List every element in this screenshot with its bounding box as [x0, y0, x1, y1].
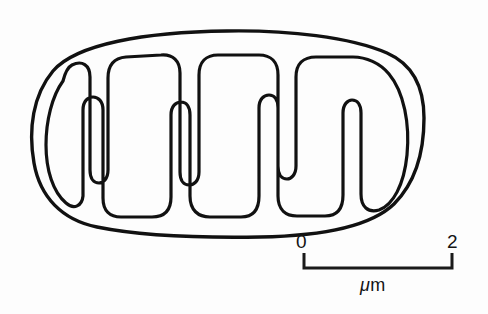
scalebar-unit-m: m: [370, 275, 385, 295]
scalebar-unit-mu: μ: [360, 275, 370, 295]
scalebar-rule: [304, 253, 452, 268]
scalebar-start-label: 0: [296, 232, 307, 251]
scalebar-end-label: 2: [447, 232, 458, 251]
inner-membrane-cristae-path: [46, 55, 408, 217]
scalebar-unit-label: μm: [360, 276, 386, 294]
figure-root: 0 2 μm: [0, 0, 488, 314]
mitochondrion-diagram: [0, 0, 488, 314]
